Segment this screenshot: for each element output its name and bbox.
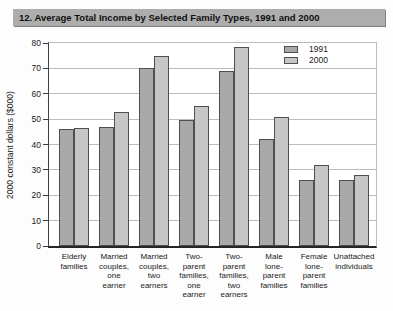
- legend-row-1991: 1991: [284, 45, 328, 53]
- y-tick-mark-30: [43, 169, 48, 170]
- y-tick-label-20: 20: [19, 190, 41, 200]
- bar-1991-group-8: [339, 180, 354, 246]
- y-tick-label-30: 30: [19, 165, 41, 175]
- legend-label-1991: 1991: [309, 45, 328, 53]
- legend: 19912000: [284, 45, 328, 67]
- bar-1991-group-6: [259, 139, 274, 246]
- y-tick-mark-80: [43, 43, 48, 44]
- y-tick-label-70: 70: [19, 63, 41, 73]
- y-tick-label-50: 50: [19, 114, 41, 124]
- gridline-50: [49, 119, 376, 120]
- y-tick-label-40: 40: [19, 140, 41, 150]
- gridline-70: [49, 68, 376, 69]
- bar-1991-group-7: [299, 180, 314, 246]
- y-tick-label-10: 10: [19, 216, 41, 226]
- legend-label-2000: 2000: [309, 56, 328, 64]
- bar-1991-group-5: [219, 71, 234, 246]
- bar-2000-group-6: [274, 117, 289, 246]
- bar-1991-group-3: [139, 68, 154, 246]
- plot-area: 19912000: [48, 42, 377, 248]
- bar-2000-group-7: [314, 165, 329, 246]
- bar-2000-group-2: [114, 112, 129, 246]
- legend-swatch-2000: [284, 57, 298, 64]
- gridline-60: [49, 93, 376, 94]
- y-tick-label-80: 80: [19, 38, 41, 48]
- y-tick-mark-70: [43, 68, 48, 69]
- bar-2000-group-8: [354, 175, 369, 246]
- income-bar-chart-figure: 12. Average Total Income by Selected Fam…: [0, 0, 393, 311]
- bar-2000-group-1: [74, 128, 89, 246]
- bar-1991-group-4: [179, 120, 194, 246]
- y-tick-mark-10: [43, 220, 48, 221]
- y-tick-mark-50: [43, 119, 48, 120]
- bar-2000-group-3: [154, 56, 169, 246]
- y-tick-label-0: 0: [19, 241, 41, 251]
- y-axis-title: 2000 constant dollars ($000): [5, 91, 15, 199]
- bar-2000-group-4: [194, 106, 209, 246]
- chart-title: 12. Average Total Income by Selected Fam…: [13, 9, 385, 26]
- y-tick-label-60: 60: [19, 89, 41, 99]
- legend-swatch-1991: [284, 46, 298, 53]
- bar-2000-group-5: [234, 47, 249, 246]
- y-tick-mark-40: [43, 144, 48, 145]
- bar-1991-group-2: [99, 127, 114, 246]
- y-tick-mark-0: [43, 246, 48, 247]
- y-tick-mark-20: [43, 195, 48, 196]
- legend-row-2000: 2000: [284, 56, 328, 64]
- bar-1991-group-1: [59, 129, 74, 246]
- y-tick-mark-60: [43, 93, 48, 94]
- x-category-label-8: Unattached individuals: [330, 252, 378, 271]
